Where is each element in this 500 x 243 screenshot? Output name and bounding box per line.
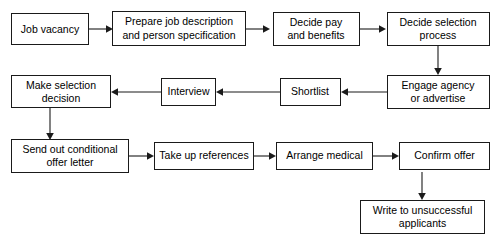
connector-send-offer-letter-to-take-up-references <box>128 152 154 160</box>
connector-prepare-job-desc-to-decide-pay <box>245 25 270 33</box>
node-engage-agency[interactable]: Engage agency or advertise <box>388 76 490 109</box>
node-confirm-offer[interactable]: Confirm offer <box>400 143 490 170</box>
node-shortlist-label: Shortlist <box>291 85 329 97</box>
node-decide-selection[interactable]: Decide selection process <box>388 13 490 46</box>
node-arrange-medical-label: Arrange medical <box>286 149 362 161</box>
node-engage-agency-label-line1: Engage agency <box>402 79 476 91</box>
node-decide-selection-label-line1: Decide selection <box>399 16 476 28</box>
node-engage-agency-label-line2: or advertise <box>411 92 466 104</box>
node-confirm-offer-label: Confirm offer <box>414 149 475 161</box>
node-arrange-medical[interactable]: Arrange medical <box>277 143 373 170</box>
node-make-selection[interactable]: Make selection decision <box>12 76 111 108</box>
node-prepare-job-desc-label-line1: Prepare job description <box>125 15 233 27</box>
node-write-unsuccessful[interactable]: Write to unsuccessful applicants <box>361 201 485 234</box>
connector-interview-to-make-selection <box>111 88 162 96</box>
connector-job-vacancy-to-prepare-job-desc <box>88 25 113 33</box>
connector-take-up-references-to-arrange-medical <box>254 152 276 160</box>
connector-make-selection-to-send-offer-letter <box>46 108 54 140</box>
connector-confirm-offer-to-write-unsuccessful <box>418 172 426 200</box>
node-take-up-references-label: Take up references <box>159 149 248 161</box>
flowchart-diagram: Job vacancy Prepare job description and … <box>0 0 500 243</box>
node-send-offer-letter-label-line1: Send out conditional <box>22 143 117 155</box>
connector-decide-selection-to-engage-agency <box>434 46 442 75</box>
node-job-vacancy[interactable]: Job vacancy <box>12 14 89 45</box>
node-decide-pay-label-line2: and benefits <box>287 29 344 41</box>
node-prepare-job-desc[interactable]: Prepare job description and person speci… <box>113 12 246 46</box>
connector-shortlist-to-interview <box>216 88 280 96</box>
node-prepare-job-desc-label-line2: and person specification <box>122 29 235 41</box>
connector-engage-agency-to-shortlist <box>341 88 387 96</box>
node-decide-selection-label-line2: process <box>420 29 457 41</box>
node-write-unsuccessful-label-line2: applicants <box>399 217 446 229</box>
connector-decide-pay-to-decide-selection <box>360 25 386 33</box>
node-take-up-references[interactable]: Take up references <box>155 143 254 170</box>
node-send-offer-letter[interactable]: Send out conditional offer letter <box>12 140 129 173</box>
node-write-unsuccessful-label-line1: Write to unsuccessful <box>373 204 473 216</box>
flowchart-canvas: Job vacancy Prepare job description and … <box>0 0 500 243</box>
node-job-vacancy-label: Job vacancy <box>21 23 80 35</box>
node-decide-pay-label-line1: Decide pay <box>290 16 343 28</box>
node-shortlist[interactable]: Shortlist <box>281 79 341 106</box>
node-make-selection-label-line2: decision <box>42 92 81 104</box>
node-make-selection-label-line1: Make selection <box>26 79 96 91</box>
connector-arrange-medical-to-confirm-offer <box>373 152 399 160</box>
node-interview[interactable]: Interview <box>162 79 216 106</box>
node-interview-label: Interview <box>167 85 209 97</box>
node-send-offer-letter-label-line2: offer letter <box>46 156 94 168</box>
node-decide-pay[interactable]: Decide pay and benefits <box>274 13 360 46</box>
